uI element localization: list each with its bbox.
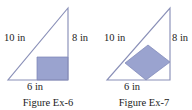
label-hypotenuse-ex6: 10 in [4, 33, 25, 44]
caption-ex6: Figure Ex-6 [0, 96, 96, 110]
caption-ex7: Figure Ex-7 [96, 96, 192, 110]
label-hypotenuse-ex7: 10 in [104, 33, 125, 44]
label-base-ex7: 6 in [124, 82, 140, 93]
label-vertical-ex7: 8 in [172, 33, 188, 44]
figure-sheet: 10 in 8 in 6 in Figure Ex-6 10 in 8 in 6… [0, 0, 192, 110]
shaded-square-ex7 [125, 45, 170, 80]
shaded-rectangle-ex6 [37, 57, 68, 80]
figure-ex7: 10 in 8 in 6 in Figure Ex-7 [96, 0, 192, 110]
label-vertical-ex6: 8 in [72, 33, 88, 44]
label-base-ex6: 6 in [27, 82, 43, 93]
figure-ex6-drawing [0, 0, 96, 96]
figure-ex6: 10 in 8 in 6 in Figure Ex-6 [0, 0, 96, 110]
figure-ex7-drawing [96, 0, 192, 96]
